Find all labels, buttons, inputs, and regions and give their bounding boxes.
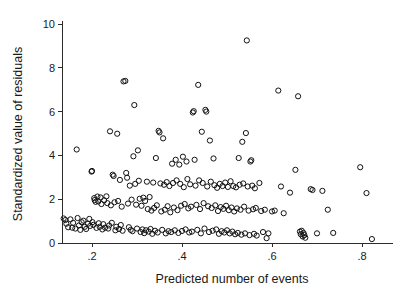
data-point [287,190,292,195]
data-point [185,176,190,181]
data-point [181,185,186,190]
data-point [364,190,369,195]
y-axis-title: Standardized value of residuals [11,47,25,221]
data-point [236,155,241,160]
data-point [204,109,209,114]
data-point [139,203,144,208]
data-point [144,179,149,184]
data-point [369,236,374,241]
data-point [188,182,193,187]
data-point [197,206,202,211]
y-tick-label: 4 [49,149,55,161]
data-point [161,136,166,141]
data-point [200,180,205,185]
data-point [225,184,230,189]
data-point [177,162,182,167]
data-point [137,196,142,201]
x-tick-label: .4 [177,250,186,262]
data-point [257,180,262,185]
data-point [135,148,140,153]
data-point [197,178,202,183]
data-point [74,147,79,152]
data-point [266,231,271,236]
y-tick-label: 10 [43,18,55,30]
y-tick-label: 8 [49,62,55,74]
data-point [117,177,122,182]
data-point [168,210,173,215]
y-tick-label: 6 [49,106,55,118]
data-point [278,184,283,189]
data-point [136,178,141,183]
data-point [240,139,245,144]
data-point [165,204,170,209]
data-point [124,170,129,175]
y-tick-label: 2 [49,193,55,205]
data-point [244,38,249,43]
data-point [331,230,336,235]
y-tick-label: 0 [49,237,55,249]
data-point [151,180,156,185]
data-point [184,159,189,164]
data-point [192,157,197,162]
x-tick-label: .6 [267,250,276,262]
data-point [171,205,176,210]
data-point [314,231,319,236]
data-point [129,197,134,202]
data-points-layer [61,38,374,242]
data-point [125,175,130,180]
data-point [75,215,80,220]
data-point [107,129,112,134]
data-point [205,184,210,189]
data-point [196,82,201,87]
data-point [242,204,247,209]
data-point [293,167,298,172]
data-point [68,217,73,222]
axis-layer [62,21,393,243]
data-point [115,131,120,136]
data-point [153,155,158,160]
data-point [358,165,363,170]
data-point [134,202,139,207]
data-point [198,231,203,236]
data-point [132,102,137,107]
data-point [320,188,325,193]
data-point [325,207,330,212]
plot-canvas: 0246810.2.4.6.8 Predicted number of even… [0,0,405,300]
data-point [228,179,233,184]
data-point [211,156,216,161]
data-point [127,183,132,188]
data-point [119,204,124,209]
x-tick-label: .2 [87,250,96,262]
data-point [87,216,92,221]
data-point [173,157,178,162]
data-point [193,183,198,188]
x-axis-title: Predicted number of events [156,272,309,286]
data-point [157,130,162,135]
data-point [131,154,136,159]
data-point [175,208,180,213]
data-point [243,130,248,135]
data-point [260,229,265,234]
scatter-plot-figure: 0246810.2.4.6.8 Predicted number of even… [0,0,405,300]
data-point [170,180,175,185]
data-point [281,211,286,216]
data-point [180,154,185,159]
data-point [310,187,315,192]
data-point [213,203,218,208]
data-point [202,226,207,231]
data-point [147,194,152,199]
x-tick-label: .8 [357,250,366,262]
data-point [71,220,76,225]
data-point [207,138,212,143]
data-point [296,94,301,99]
data-point [276,88,281,93]
data-point [199,129,204,134]
